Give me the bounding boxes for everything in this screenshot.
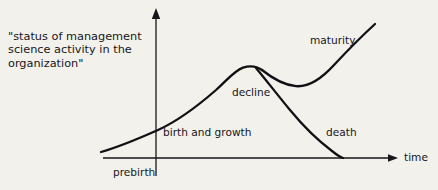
- label-time-axis: time: [404, 151, 428, 164]
- growth-curve: [101, 66, 262, 152]
- management-science-lifecycle-figure: [0, 0, 438, 190]
- label-birth-and-growth: birth and growth: [163, 126, 251, 139]
- death-curve: [256, 68, 343, 158]
- label-prebirth: prebirth: [113, 166, 155, 179]
- label-death: death: [326, 126, 357, 139]
- x-axis-arrow-icon: [388, 154, 398, 161]
- y-axis-arrow-icon: [152, 8, 160, 19]
- label-decline: decline: [232, 86, 270, 99]
- y-axis-caption: "status of management science activity i…: [8, 30, 158, 70]
- label-maturity: maturity: [310, 34, 355, 47]
